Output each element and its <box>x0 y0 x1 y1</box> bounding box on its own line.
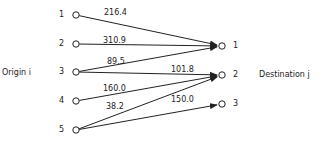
origin-node-label: 1 <box>59 11 64 19</box>
edges <box>79 16 217 130</box>
flow-value-label: 150.0 <box>171 96 194 104</box>
destination-node-label: 1 <box>233 42 238 50</box>
flow-arrow-4-to-2 <box>79 76 217 101</box>
destination-node-3 <box>219 101 225 107</box>
destination-node-label: 2 <box>233 71 238 79</box>
destination-axis-label: Destination j <box>259 71 310 79</box>
destination-node-label: 3 <box>233 100 238 108</box>
origin-node-3 <box>73 69 79 75</box>
origin-node-label: 2 <box>59 40 64 48</box>
origin-axis-label: Origin i <box>2 69 31 77</box>
flow-arrow-5-to-2 <box>79 77 217 129</box>
origin-node-label: 4 <box>59 97 64 105</box>
origin-node-label: 3 <box>59 68 64 76</box>
flow-value-label: 89.5 <box>107 58 125 66</box>
flow-arrow-1-to-1 <box>79 16 217 45</box>
destination-node-1 <box>219 43 225 49</box>
flow-arrow-5-to-3 <box>79 105 217 130</box>
flow-value-label: 310.9 <box>103 37 126 45</box>
flow-arrow-3-to-2 <box>79 72 217 75</box>
origin-node-1 <box>73 12 79 18</box>
flow-arrow-3-to-1 <box>79 47 217 72</box>
origin-node-2 <box>73 41 79 47</box>
flow-arrow-2-to-1 <box>79 44 217 46</box>
destination-node-2 <box>219 72 225 78</box>
flow-value-label: 216.4 <box>104 9 127 17</box>
origin-node-4 <box>73 98 79 104</box>
flow-value-label: 38.2 <box>106 103 124 111</box>
flow-value-label: 101.8 <box>171 66 194 74</box>
origin-node-5 <box>73 127 79 133</box>
origin-node-label: 5 <box>59 126 64 134</box>
flow-value-label: 160.0 <box>103 85 126 93</box>
